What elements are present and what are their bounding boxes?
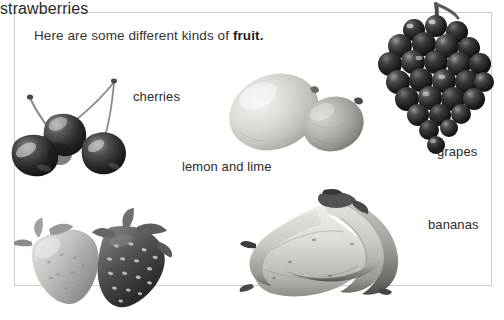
label-grapes: grapes xyxy=(437,144,477,159)
label-strawberries: strawberries xyxy=(0,0,88,18)
cherries-photo xyxy=(2,72,138,178)
grapes-photo xyxy=(374,2,498,162)
label-cherries: cherries xyxy=(133,89,180,104)
strawberries-photo xyxy=(14,208,178,312)
title-bold-word: fruit. xyxy=(233,28,264,43)
bananas-photo xyxy=(228,188,412,310)
page-title: Here are some different kinds of fruit. xyxy=(34,28,264,43)
citrus-photo xyxy=(218,66,364,162)
worksheet-page: Here are some different kinds of fruit. xyxy=(0,0,504,320)
label-lemon-and-lime: lemon and lime xyxy=(182,159,272,174)
title-lead-text: Here are some different kinds of xyxy=(34,28,233,43)
label-bananas: bananas xyxy=(428,217,479,232)
